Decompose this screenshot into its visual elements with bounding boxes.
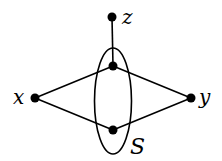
edge-x-s2 — [35, 98, 113, 130]
graph-diagram: z x y S — [0, 0, 222, 161]
edge-z-s1 — [112, 17, 113, 66]
node-y — [187, 94, 196, 103]
node-s-upper — [109, 62, 118, 71]
node-s-lower — [109, 126, 118, 135]
label-y: y — [198, 85, 211, 109]
edge-x-s1 — [35, 66, 113, 98]
node-z — [108, 13, 117, 22]
edge-s1-y — [113, 66, 191, 98]
node-x — [31, 94, 40, 103]
label-s: S — [130, 134, 145, 159]
label-z: z — [121, 5, 133, 29]
label-x: x — [13, 85, 24, 109]
edge-s2-y — [113, 98, 191, 130]
